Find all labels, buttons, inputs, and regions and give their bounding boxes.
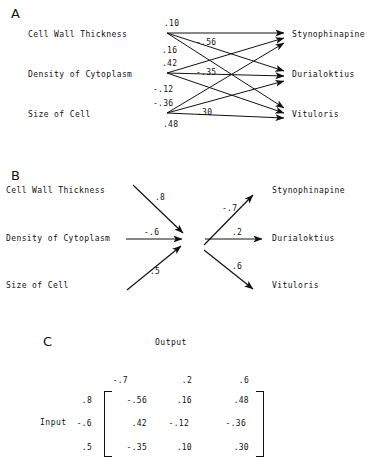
panel-a-letter: A xyxy=(11,6,20,21)
panel-b-output-weight-1: .2 xyxy=(232,228,242,237)
panel-b-input-label-1: Density of Cytoplasm xyxy=(6,234,110,244)
panel-a-weight-1: -.56 xyxy=(196,38,216,47)
panel-b-input-weight-1: -.6 xyxy=(144,228,159,237)
matrix-cell-1-2: -.36 xyxy=(212,419,246,428)
panel-a-output-label-1: Durialoktius xyxy=(292,70,355,80)
panel-a-output-label-2: Vituloris xyxy=(292,110,339,120)
matrix-cell-2-2: .30 xyxy=(215,443,249,452)
panel-b-input-label-2: Size of Cell xyxy=(6,281,69,291)
panel-b-output-label-1: Durialoktius xyxy=(272,234,335,244)
panel-a-weight-3: .42 xyxy=(162,59,177,68)
panel-a-weight-8: .48 xyxy=(163,120,178,129)
panel-b-output-weight-0: -.7 xyxy=(222,204,237,213)
panel-a-weight-6: -.36 xyxy=(153,99,173,108)
panel-a-weight-0: .10 xyxy=(164,19,179,28)
panel-b-input-weight-2: .5 xyxy=(150,267,160,276)
panel-a-weight-5: -.12 xyxy=(153,85,173,94)
matrix-bracket-left xyxy=(104,391,112,457)
matrix-row-header-1: -.6 xyxy=(62,419,92,428)
matrix-row-header-2: .5 xyxy=(62,443,92,452)
panel-c-letter: C xyxy=(43,334,52,349)
matrix-cell-0-1: .16 xyxy=(158,396,192,405)
panel-a-weight-4: -.35 xyxy=(196,68,216,77)
matrix-output-title: Output xyxy=(155,338,187,347)
panel-b-input-label-0: Cell Wall Thickness xyxy=(6,186,105,196)
matrix-col-header-2: .6 xyxy=(215,376,249,385)
panel-a-output-label-0: Stynophinapine xyxy=(292,30,365,40)
matrix-row-header-0: .8 xyxy=(62,396,92,405)
panel-b-output-weight-2: .6 xyxy=(232,262,242,271)
panel-b-output-label-0: Stynophinapine xyxy=(272,186,345,196)
matrix-cell-1-1: -.12 xyxy=(155,419,189,428)
matrix-cell-0-2: .48 xyxy=(215,396,249,405)
matrix-cell-0-0: -.56 xyxy=(113,396,147,405)
panel-b-letter: B xyxy=(11,168,20,183)
figure-root: A Cell Wall Thickness Density of Cytopla… xyxy=(0,0,378,466)
matrix-col-header-1: .2 xyxy=(158,376,192,385)
panel-b-input-weight-0: .8 xyxy=(155,193,165,202)
panel-a-input-label-1: Density of Cytoplasm xyxy=(28,70,132,80)
panel-b-output-label-2: Vituloris xyxy=(272,281,319,291)
panel-a-input-label-2: Size of Cell xyxy=(28,110,91,120)
matrix-cell-2-1: .10 xyxy=(158,443,192,452)
matrix-cell-1-0: .42 xyxy=(113,419,147,428)
matrix-cell-2-0: -.35 xyxy=(113,443,147,452)
panel-a-input-label-0: Cell Wall Thickness xyxy=(28,30,127,40)
matrix-bracket-right xyxy=(256,391,264,457)
matrix-col-header-0: -.7 xyxy=(94,376,128,385)
panel-a-weight-2: .16 xyxy=(162,46,177,55)
panel-a-weight-7: .30 xyxy=(197,108,212,117)
